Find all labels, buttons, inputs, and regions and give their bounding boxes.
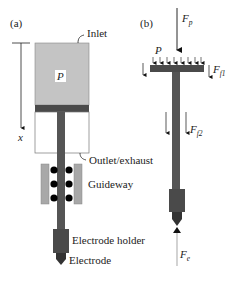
free-body-holder: [169, 189, 185, 212]
guideway-label: Guideway: [88, 178, 134, 190]
outlet-leader: [80, 153, 86, 160]
outlet-label: Outlet/exhaust: [89, 154, 153, 166]
electrode-force-arrowhead: [173, 227, 181, 233]
electrode-label: Electrode: [69, 254, 111, 266]
inlet-leader: [78, 35, 84, 43]
guideway-left: [41, 164, 49, 204]
piston-rod: [57, 112, 65, 230]
pressure-label: P: [154, 44, 162, 56]
distributed-pressure-arrows: [153, 57, 201, 63]
pneumatic-actuator-diagram: (a) x P Inlet Outlet/exhaust: [0, 0, 241, 282]
panel-b: (b) Fp P Ff1 Ff2: [140, 8, 226, 266]
electrode: [56, 253, 66, 265]
piston-plate: [150, 65, 204, 72]
free-body-electrode: [172, 212, 182, 226]
inlet-label: Inlet: [87, 27, 107, 39]
panel-b-label: (b): [140, 17, 153, 30]
electrode-holder-label: Electrode holder: [72, 234, 145, 246]
panel-a: (a) x P Inlet Outlet/exhaust: [10, 17, 153, 266]
electrode-force-label: Fe: [179, 248, 191, 263]
x-axis-label: x: [17, 131, 23, 143]
piston-force-label: Fp: [181, 12, 193, 27]
guideway-right: [74, 164, 82, 204]
electrode-holder: [53, 229, 69, 253]
piston: [35, 105, 89, 112]
friction-2-label: Ff2: [189, 123, 203, 138]
chamber-pressure-label: P: [56, 70, 64, 82]
free-body-rod: [172, 72, 180, 190]
panel-a-label: (a): [10, 17, 23, 30]
friction-1-label: Ff1: [212, 63, 226, 78]
x-axis-arrow: x: [12, 43, 30, 143]
